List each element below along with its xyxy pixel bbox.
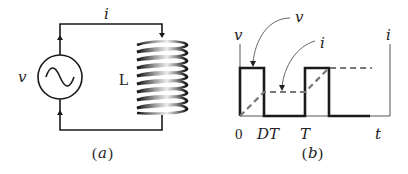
- caption-b-close: ): [318, 145, 323, 162]
- right-axis-label: i: [386, 26, 391, 44]
- arrow-down-coil-icon: [159, 33, 165, 38]
- tick-dt: DT: [256, 125, 280, 143]
- arrow-up-top-icon: [57, 35, 63, 40]
- waveform-panel-b: v i v i 0 DT T t ( b ): [234, 8, 391, 162]
- caption-a-open: (: [92, 145, 97, 162]
- caption-b-letter: b: [308, 144, 318, 162]
- arrow-up-bottom-icon: [57, 110, 63, 115]
- tick-t: T: [300, 125, 311, 143]
- left-axis-label: v: [234, 26, 243, 44]
- tick-zero: 0: [235, 126, 243, 142]
- caption-b-open: (: [302, 145, 307, 162]
- circuit-panel-a: i v L ( a ): [18, 5, 187, 162]
- axis-t-label: t: [375, 125, 382, 143]
- inductor-coil-icon: [137, 41, 187, 113]
- caption-a-letter: a: [98, 144, 107, 162]
- current-label: i: [104, 5, 109, 23]
- source-voltage-label: v: [18, 68, 27, 86]
- caption-a-close: ): [108, 145, 113, 162]
- pointer-v-label: v: [295, 8, 304, 26]
- inductor-label: L: [119, 71, 129, 88]
- pointer-i-label: i: [320, 34, 325, 52]
- diagram-canvas: i v L ( a ) v i v i 0 DT T t ( b ): [0, 0, 408, 174]
- pointer-i-arrow-icon: [282, 41, 315, 87]
- pointer-v-arrow-icon: [253, 18, 290, 63]
